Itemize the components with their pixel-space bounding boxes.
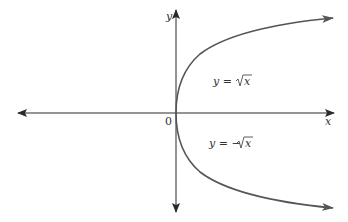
equation-lhs: y = − — [208, 137, 241, 150]
equation-rhs: x — [245, 137, 252, 150]
y-axis-label: y — [165, 10, 173, 23]
curve-neg-sqrt-x — [176, 113, 333, 208]
equation-sqrt-x: y = x — [212, 75, 252, 88]
origin-label: 0 — [165, 115, 172, 128]
graph-canvas: y x 0 y = x y = − x — [0, 0, 348, 222]
equation-neg-sqrt-x: y = − x — [208, 137, 253, 150]
equation-lhs: y = — [212, 75, 232, 88]
curve-sqrt-x — [176, 18, 333, 113]
x-axis-label: x — [325, 115, 332, 128]
equation-rhs: x — [244, 75, 251, 88]
